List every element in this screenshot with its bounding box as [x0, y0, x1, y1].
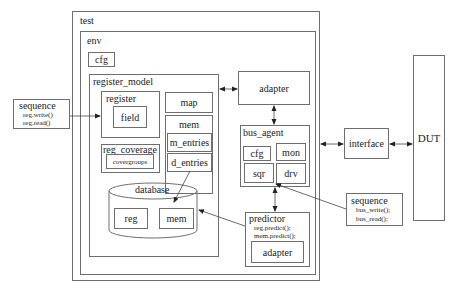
- dut-label: DUT: [418, 132, 441, 144]
- d-entries-label: d_entries: [171, 157, 208, 168]
- db-mem-label: mem: [167, 213, 187, 224]
- bus-agent-label: bus_agent: [243, 127, 284, 138]
- sequence-left-line2: reg.read(): [23, 119, 50, 127]
- predictor-adapter-label: adapter: [263, 247, 292, 258]
- db-reg-box: reg: [114, 208, 148, 229]
- sqr-label: sqr: [253, 168, 265, 179]
- m-entries-box: m_entries: [167, 133, 212, 152]
- drv-label: drv: [284, 168, 297, 179]
- drv-box: drv: [276, 163, 306, 184]
- interface-label: interface: [349, 138, 384, 149]
- sqr-box: sqr: [244, 163, 274, 183]
- database-label: database: [135, 184, 169, 195]
- sequence-right-line2: bus_read();: [356, 215, 388, 223]
- map-box: map: [165, 92, 213, 113]
- interface-box: interface: [344, 128, 389, 159]
- field-box: field: [113, 106, 147, 128]
- register-model-label: register_model: [93, 76, 153, 87]
- dut-box: DUT: [413, 55, 445, 221]
- d-entries-box: d_entries: [167, 153, 212, 172]
- register-label: register: [106, 93, 136, 104]
- adapter-box: adapter: [238, 71, 310, 105]
- agent-cfg-box: cfg: [243, 146, 271, 161]
- m-entries-label: m_entries: [170, 137, 209, 148]
- predictor-line2: mem.predict();: [254, 232, 296, 240]
- map-label: map: [180, 97, 197, 108]
- agent-cfg-label: cfg: [251, 148, 264, 159]
- mon-box: mon: [276, 143, 306, 161]
- sequence-right-line1: bus_write();: [356, 206, 390, 214]
- sequence-right-label: sequence: [351, 195, 388, 206]
- sequence-left-label: sequence: [19, 100, 56, 111]
- mem-label: mem: [179, 119, 199, 130]
- env-cfg-label: cfg: [95, 54, 108, 65]
- test-label: test: [80, 15, 94, 26]
- env-label: env: [87, 35, 101, 46]
- predictor-line1: reg.predict();: [254, 224, 291, 232]
- predictor-label: predictor: [249, 213, 285, 224]
- db-reg-label: reg: [125, 213, 138, 224]
- field-label: field: [121, 112, 139, 123]
- db-mem-box: mem: [159, 208, 194, 229]
- adapter-label: adapter: [259, 83, 288, 94]
- sequence-left-line1: reg.write(): [23, 111, 53, 119]
- env-cfg-box: cfg: [88, 52, 115, 67]
- predictor-adapter-box: adapter: [251, 241, 304, 263]
- covergroups-label: covergroups: [113, 158, 147, 166]
- mon-label: mon: [282, 147, 300, 158]
- covergroups-box: covergroups: [106, 154, 154, 169]
